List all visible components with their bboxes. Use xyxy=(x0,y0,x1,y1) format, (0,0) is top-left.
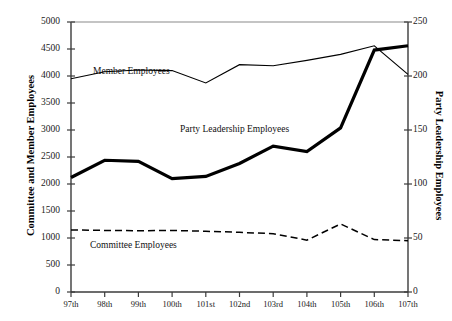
series-line-party-leadership-employees xyxy=(71,46,408,179)
left-tick-label: 1500 xyxy=(26,206,60,215)
left-tick-label: 1000 xyxy=(26,233,60,242)
series-line-member-employees xyxy=(71,46,408,83)
left-tick-label: 3500 xyxy=(26,98,60,107)
right-tick-label: 100 xyxy=(413,179,447,188)
right-tick-label: 0 xyxy=(413,287,447,296)
plot-area xyxy=(0,0,452,321)
right-tick-label: 50 xyxy=(413,233,447,242)
x-tick-label: 107th xyxy=(388,300,428,309)
chart-figure: Committee and Member Employees Party Lea… xyxy=(0,0,452,321)
series-line-committee-employees xyxy=(71,224,408,241)
left-tick-label: 4000 xyxy=(26,71,60,80)
left-tick-label: 2000 xyxy=(26,179,60,188)
left-tick-label: 2500 xyxy=(26,152,60,161)
left-tick-label: 5000 xyxy=(26,17,60,26)
right-tick-label: 200 xyxy=(413,71,447,80)
left-tick-label: 4500 xyxy=(26,44,60,53)
right-tick-label: 150 xyxy=(413,125,447,134)
left-tick-label: 500 xyxy=(26,260,60,269)
right-tick-label: 250 xyxy=(413,17,447,26)
left-tick-label: 0 xyxy=(26,287,60,296)
left-tick-label: 3000 xyxy=(26,125,60,134)
